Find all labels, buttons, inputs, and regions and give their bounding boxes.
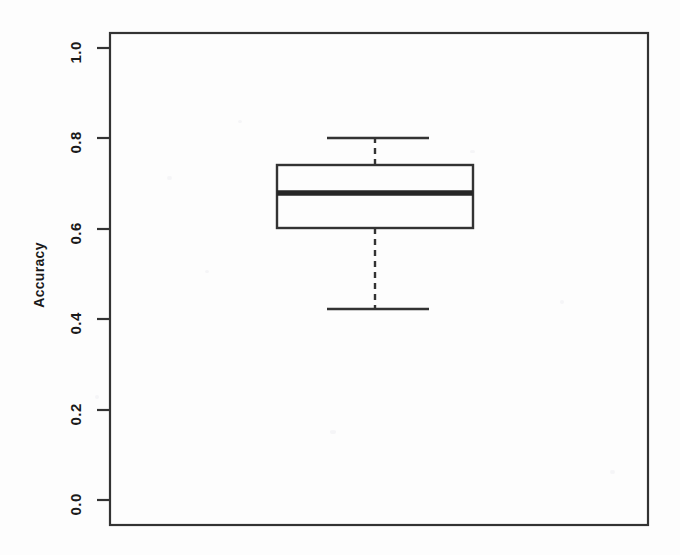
plot-frame <box>110 33 648 525</box>
y-axis-title: Accuracy <box>31 242 47 307</box>
boxplot-glyph <box>277 138 473 309</box>
y-tick-label-1: 0.2 <box>60 402 90 418</box>
y-tick-label-2: 0.4 <box>60 311 90 327</box>
iqr-box <box>277 165 473 228</box>
boxplot-figure: 0.0 0.2 0.4 0.6 0.8 1.0 Accuracy <box>0 0 680 555</box>
y-axis-ticks <box>97 48 110 500</box>
y-tick-label-0: 0.0 <box>60 492 90 508</box>
y-tick-label-3: 0.6 <box>60 221 90 237</box>
y-tick-label-4: 0.8 <box>60 130 90 146</box>
plot-canvas <box>0 0 680 555</box>
y-tick-label-5: 1.0 <box>60 40 90 56</box>
